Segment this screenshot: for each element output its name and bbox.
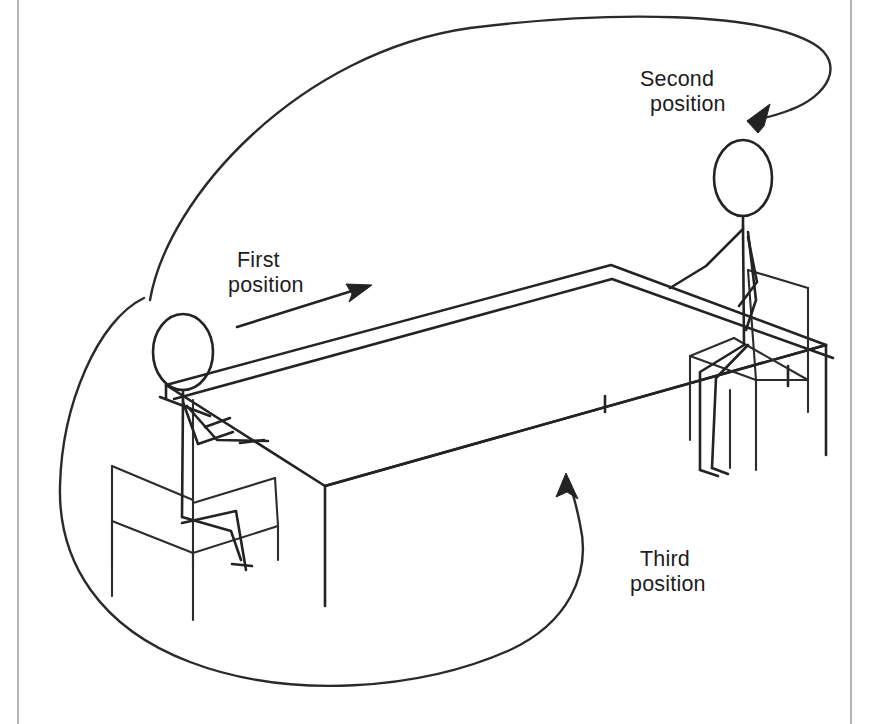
chair-left-seat-side	[275, 478, 278, 526]
person-left-head	[153, 314, 213, 390]
person-right-leg-near	[700, 345, 744, 470]
table-top-surface	[166, 265, 826, 486]
label-first-position-line1: First	[237, 248, 280, 272]
person-right-foot-far	[712, 468, 728, 474]
conference-table	[166, 265, 833, 606]
third-position-arrow-curve	[60, 298, 583, 686]
chair-left-seat-front-edge	[193, 526, 278, 553]
chair-right-seat-front-left	[690, 338, 734, 356]
third-position-arrow	[60, 298, 583, 686]
second-position-arrowhead-icon	[747, 104, 770, 133]
chair-left-seat-back-edge	[193, 478, 275, 503]
third-position-arrowhead-icon	[556, 473, 578, 499]
person-right-arm-near	[670, 229, 743, 288]
label-third-position-line2: position	[630, 572, 706, 596]
first-position-arrowhead-icon	[346, 284, 372, 302]
person-left-torso	[182, 400, 183, 517]
label-third-position-line1: Third	[640, 547, 690, 571]
frame-border	[18, 0, 851, 724]
label-first-position: First position	[228, 248, 304, 297]
person-left-leg-far	[182, 511, 246, 570]
person-left-foot	[232, 564, 252, 566]
person-right-head	[714, 140, 772, 216]
person-left-leg-near	[182, 517, 241, 560]
chair-left-back-rail	[112, 521, 193, 553]
table-edge-front	[325, 345, 826, 486]
person-right-torso	[743, 226, 744, 345]
person-right-foot-near	[700, 470, 718, 476]
label-first-position-line2: position	[228, 273, 304, 297]
seated-person-left	[153, 314, 268, 570]
label-second-position-line2: position	[650, 92, 726, 116]
label-second-position: Second position	[640, 67, 726, 116]
label-second-position-line1: Second	[640, 67, 714, 91]
chair-left-backrest-top	[112, 466, 193, 500]
label-third-position: Third position	[630, 547, 706, 596]
diagram-canvas: First position Second position Third pos…	[0, 0, 871, 724]
seating-position-diagram: First position Second position Third pos…	[0, 0, 871, 724]
